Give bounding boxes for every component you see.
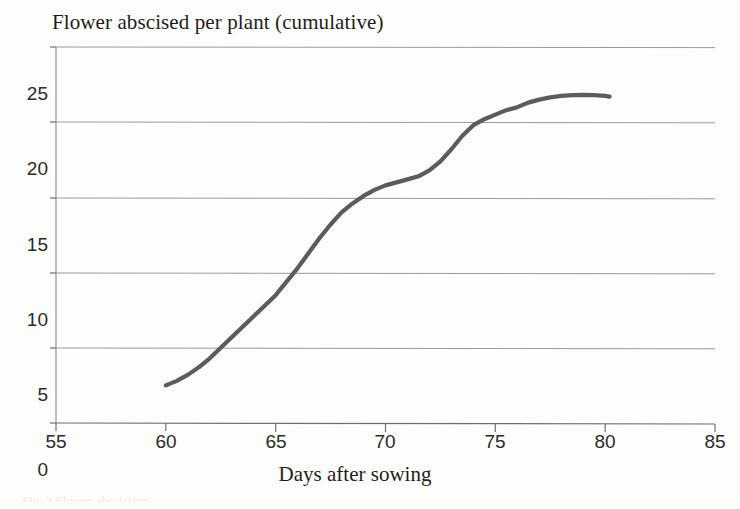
- gridlines: [56, 47, 715, 349]
- plot-area: [56, 47, 715, 423]
- gridline-20: [56, 122, 715, 123]
- y-axis-tick-labels: 25 20 15 10 5 0: [0, 47, 48, 423]
- x-axis-title: Days after sowing: [0, 462, 740, 487]
- x-tick-label-85: 85: [685, 432, 740, 451]
- x-tick-label-55: 55: [26, 432, 86, 451]
- y-tick-label-5: 5: [4, 385, 48, 404]
- chart-svg: [56, 47, 715, 423]
- x-tick-label-60: 60: [136, 432, 196, 451]
- y-axis-ticks: [50, 47, 56, 423]
- x-axis-tick-labels: 55 60 65 70 75 80 85: [56, 432, 715, 458]
- caption-remnant: Fig. 3 Flower abscission: [22, 494, 149, 502]
- gridline-15: [56, 198, 715, 199]
- y-tick-label-20: 20: [4, 159, 48, 178]
- figure-container: Flower abscised per plant (cumulative) 2…: [0, 0, 740, 509]
- x-tick-label-65: 65: [246, 432, 306, 451]
- chart-title: Flower abscised per plant (cumulative): [52, 9, 384, 35]
- y-tick-label-15: 15: [4, 235, 48, 254]
- data-series-line: [166, 95, 610, 386]
- gridline-10: [56, 273, 715, 274]
- x-axis-line: [56, 423, 715, 424]
- gridline-5: [56, 348, 715, 349]
- x-tick-label-75: 75: [465, 432, 525, 451]
- x-tick-label-70: 70: [355, 432, 415, 451]
- y-tick-label-25: 25: [4, 84, 48, 103]
- gridline-25: [56, 47, 715, 48]
- y-tick-label-10: 10: [4, 310, 48, 329]
- x-tick-label-80: 80: [575, 432, 635, 451]
